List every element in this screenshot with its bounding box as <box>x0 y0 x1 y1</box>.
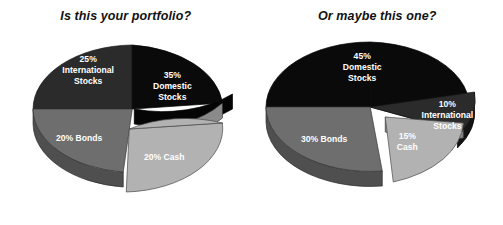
pie-left-label-international-line2: International <box>62 65 114 75</box>
pie-right-label-international-line3: Stocks <box>433 121 461 131</box>
pie-left-label-international-line3: Stocks <box>74 76 102 86</box>
pie-left-label-domestic-line2: Domestic <box>153 81 192 91</box>
pie-right-label-domestic-pct: 45% <box>353 51 371 61</box>
pie-left-label-domestic-line3: Stocks <box>158 92 186 102</box>
chart-panel-left: Is this your portfolio? <box>0 0 252 225</box>
pie-right-label-cash-pct: 15% <box>398 131 416 141</box>
pie-left-label-cash: 20% Cash <box>144 152 185 162</box>
pie-right-label-international-pct: 10% <box>438 99 456 109</box>
pie-left-label-domestic-pct: 35% <box>164 70 182 80</box>
pie-left-label-international-pct: 25% <box>80 54 98 64</box>
pie-right-label-domestic-line2: Domestic <box>342 62 381 72</box>
chart-panel-right: Or maybe this one? <box>252 0 503 225</box>
pie-right-label-cash-line2: Cash <box>396 142 417 152</box>
pie-right-label-domestic-line3: Stocks <box>348 73 376 83</box>
pie-chart-figure: Is this your portfolio? <box>0 0 503 225</box>
pie-right-svg: 45% Domestic Stocks 10% International St… <box>252 0 503 225</box>
pie-right-label-bonds: 30% Bonds <box>300 134 347 144</box>
pie-left-svg: 25% International Stocks 35% Domestic St… <box>0 0 252 225</box>
pie-left-label-bonds: 20% Bonds <box>56 133 103 143</box>
pie-right-label-international-line2: International <box>421 110 473 120</box>
pie-chart-right: 45% Domestic Stocks 10% International St… <box>252 0 503 225</box>
pie-chart-left: 25% International Stocks 35% Domestic St… <box>0 0 252 225</box>
